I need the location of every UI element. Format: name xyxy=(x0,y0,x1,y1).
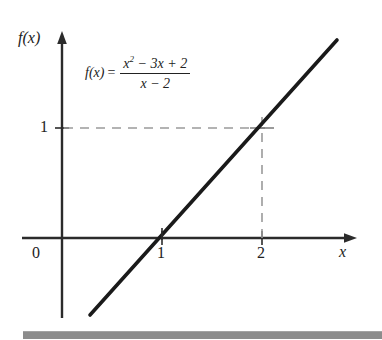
equation-fraction: x2 − 3x + 2 x − 2 xyxy=(120,54,190,92)
x-tick-label-1: 1 xyxy=(157,245,165,261)
numerator-remainder: − 3x + 2 xyxy=(134,56,187,71)
x-axis xyxy=(22,233,357,243)
y-axis-label: f(x) xyxy=(18,30,40,46)
function-graph-figure xyxy=(0,0,382,340)
equation-equals-sign: = xyxy=(107,65,115,81)
x-tick-label-2: 2 xyxy=(257,245,265,261)
y-axis-arrowhead xyxy=(57,31,67,44)
equation-lhs: f(x) xyxy=(85,65,104,81)
origin-label: 0 xyxy=(32,245,40,261)
page-footer-bar xyxy=(23,331,382,339)
y-axis xyxy=(57,31,67,318)
equation-numerator: x2 − 3x + 2 xyxy=(120,54,190,73)
equation-denominator: x − 2 xyxy=(137,74,173,92)
y-tick-label-1: 1 xyxy=(40,119,48,135)
x-axis-label: x xyxy=(339,244,346,260)
x-axis-arrowhead xyxy=(344,233,357,243)
function-equation: f(x) = x2 − 3x + 2 x − 2 xyxy=(85,54,190,92)
